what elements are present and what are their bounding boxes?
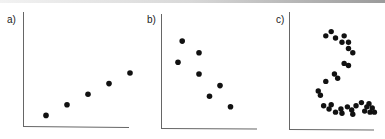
data-point [333,35,338,40]
data-point [372,109,377,114]
scatter-plots [0,0,385,139]
panel-c-x-axis [289,130,374,131]
data-point [323,79,328,84]
panel-a-x-axis [23,127,129,128]
data-point [196,50,202,56]
data-point [179,38,185,44]
data-point [366,101,371,106]
data-point [335,76,340,81]
data-point [127,70,133,76]
data-point [207,93,213,99]
data-point [43,113,49,119]
panel-c-points [316,29,378,117]
data-point [362,108,367,113]
panel-a [23,12,129,128]
data-point [350,112,355,117]
data-point [329,29,334,34]
panel-b [161,14,257,129]
data-point [333,109,338,114]
data-point [326,106,331,111]
data-point [64,102,70,108]
data-point [346,46,351,51]
data-point [106,81,112,87]
data-point [217,83,223,89]
data-point [332,71,337,76]
data-point [350,50,355,55]
data-point [228,104,234,110]
panel-b-points [175,38,233,109]
data-point [339,111,344,116]
data-point [346,40,351,45]
panel-b-x-axis [161,129,257,130]
data-point [353,103,358,108]
data-point [318,93,323,98]
data-point [321,103,326,108]
data-point [345,104,350,109]
panel-a-points [43,70,133,118]
data-point [341,33,346,38]
data-point [85,91,91,97]
data-point [339,40,344,45]
data-point [196,71,202,77]
data-point [346,63,351,68]
data-point [175,59,181,65]
data-point [323,33,328,38]
data-point [359,100,364,105]
